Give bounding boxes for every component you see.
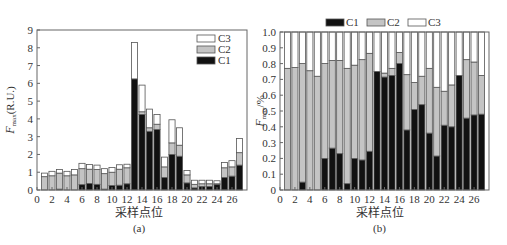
bar-segment-c2 [86,169,92,183]
bar-segment-c3 [199,180,205,184]
bar-segment-c1 [352,158,358,190]
bar-segment-c1 [161,178,167,190]
bar-segment-c2 [411,83,417,110]
bar-segment-c1 [396,64,402,190]
x-tick-label: 0 [34,193,40,205]
bar-segment-c3 [434,32,440,87]
x-tick-label: 2 [292,193,298,205]
y-tick-label: 0.9 [262,42,276,54]
x-tick-label: 0 [277,193,283,205]
bar-segment-c2 [101,174,107,189]
bar-segment-c2 [471,62,477,115]
bar-segment-c3 [337,32,343,60]
bar-segment-c2 [299,64,305,183]
legend-swatch-c3 [408,19,426,26]
x-tick-label: 24 [212,193,224,205]
x-tick-label: 8 [94,193,100,205]
bar-segment-c3 [389,32,395,68]
bar-segment-c3 [471,32,477,62]
bar-segment-c2 [352,65,358,158]
bar-segment-c3 [299,32,305,64]
y-tick-label: 0.2 [262,152,276,164]
bar-segment-c2 [389,68,395,75]
y-tick-label: 8 [28,42,34,54]
x-tick-label: 10 [349,193,361,205]
bar-segment-c3 [184,170,190,174]
y-axis-label: Fmax(R.U.) [3,86,18,135]
y-tick-label: 0.3 [262,137,276,149]
x-tick-label: 12 [122,193,133,205]
bar-segment-c2 [359,60,365,160]
x-tick-label: 26 [469,193,481,205]
bar-segment-c3 [396,32,402,53]
x-tick-label: 22 [197,193,208,205]
bar-segment-c2 [284,68,290,190]
bar-segment-c2 [146,128,152,132]
bar-segment-c2 [426,68,432,133]
bar-segment-c1 [131,79,137,190]
bar-segment-c3 [307,32,313,71]
bar-segment-c3 [191,180,197,184]
bar-segment-c2 [396,53,402,64]
legend-swatch-c1 [326,19,344,26]
bar-segment-c2 [184,175,190,183]
bar-segment-c1 [221,178,227,190]
bar-segment-c3 [464,32,470,60]
bar-segment-c2 [229,167,235,176]
bar-segment-c2 [161,167,167,178]
bar-segment-c3 [411,32,417,83]
y-tick-label: 0 [271,184,277,196]
x-tick-label: 8 [337,193,343,205]
bar-segment-c2 [322,64,328,159]
bar-segment-c1 [367,151,373,190]
bar-segment-c2 [367,53,373,151]
bar-segment-c1 [434,156,440,190]
bar-segment-c2 [124,168,130,184]
bar-segment-c3 [64,171,70,175]
x-tick-label: 12 [364,193,375,205]
bar-segment-c3 [41,173,47,177]
bar-segment-c2 [94,170,100,185]
legend-swatch-c1 [197,57,215,64]
y-tick-label: 0.1 [262,168,276,180]
bar-segment-c1 [374,72,380,191]
bar-segment-c3 [116,165,122,169]
bar-segment-c3 [292,32,298,68]
x-tick-label: 20 [182,193,194,205]
x-tick-label: 24 [454,193,466,205]
y-tick-label: 3 [28,131,34,143]
bar-segment-c1 [116,185,122,190]
bar-segment-c1 [471,115,477,190]
bar-segment-c2 [109,172,115,185]
x-tick-label: 26 [227,193,239,205]
bar-segment-c3 [426,32,432,68]
bar-segment-c2 [404,75,410,130]
bar-segment-c3 [109,167,115,172]
bar-segment-c1 [299,182,305,190]
bar-segment-c1 [359,160,365,190]
bar-segment-c2 [154,124,160,129]
x-tick-label: 6 [322,193,328,205]
bar-segment-c2 [419,76,425,104]
bar-segment-c2 [337,60,343,153]
bar-segment-c1 [206,186,212,190]
bar-segment-c2 [56,173,62,189]
bar-segment-c3 [322,32,328,64]
legend-swatch-c3 [197,35,215,42]
x-tick-label: 18 [409,193,421,205]
x-tick-label: 4 [64,193,70,205]
bar-segment-c1 [426,133,432,190]
bar-segment-c1 [456,75,462,190]
y-tick-label: 5 [28,95,34,107]
chart-b: 00.10.20.30.40.50.60.70.80.91.0024681012… [253,16,489,235]
bar-segment-c1 [411,109,417,190]
bar-segment-c1 [236,165,242,190]
bar-segment-c3 [56,170,62,174]
bar-segment-c1 [441,125,447,190]
bar-segment-c3 [478,32,484,75]
bar-segment-c2 [191,184,197,188]
bar-segment-c2 [169,143,175,155]
bar-segment-c3 [101,169,107,174]
bar-segment-c3 [441,32,447,91]
x-tick-label: 16 [394,193,406,205]
